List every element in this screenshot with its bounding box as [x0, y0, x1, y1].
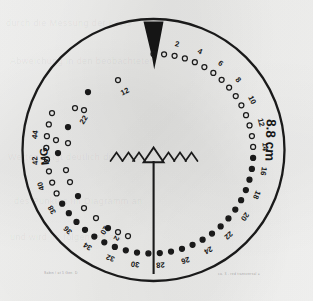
spiral-point [251, 144, 256, 149]
inner-point [73, 106, 78, 111]
spiral-point [179, 246, 184, 251]
spiral-point [50, 180, 55, 185]
inner-point [116, 78, 121, 83]
scale-label-right: 8.8 cm [262, 119, 278, 162]
spiral-number-label: 18 [251, 189, 263, 200]
inner-point [66, 141, 71, 146]
inner-point-label: 12 [119, 86, 131, 98]
spiral-point [83, 227, 88, 232]
inner-point-labels: 1222210 [78, 86, 131, 243]
inner-point [68, 180, 73, 185]
spiral-point [74, 219, 79, 224]
spiral-number-label: 22 [222, 229, 234, 241]
spiral-point [182, 56, 187, 61]
spiral-point [50, 111, 55, 116]
inner-point [86, 90, 91, 95]
spiral-number-label: 10 [246, 94, 258, 106]
spiral-point [123, 248, 128, 253]
spiral-point [202, 65, 207, 70]
inner-point [126, 234, 131, 239]
inner-point [54, 138, 59, 143]
spiral-point [251, 155, 256, 160]
spiral-point [60, 201, 65, 206]
spiral-point [157, 251, 162, 256]
spiral-point [233, 207, 238, 212]
spiral-point [233, 94, 238, 99]
spiral-point [218, 224, 223, 229]
inner-point [82, 206, 87, 211]
spiral-point [66, 211, 71, 216]
spiral-point [239, 198, 244, 203]
spiral-number-label: 34 [81, 240, 94, 253]
figure-canvas: 0246810121416182022242628303234363840424… [0, 0, 313, 301]
spiral-point [210, 231, 215, 236]
spiral-number-label: 32 [105, 252, 116, 263]
spiral-point [162, 52, 167, 57]
spiral-number-label: 20 [239, 211, 251, 223]
spiral-number-label: 4 [196, 46, 204, 56]
spiral-point [46, 169, 51, 174]
spiral-number-label: 6 [216, 59, 225, 69]
chevron-markers [111, 153, 198, 162]
spiral-point [244, 113, 249, 118]
inner-point [94, 216, 99, 221]
spiral-point [226, 216, 231, 221]
spiral-point [243, 188, 248, 193]
inner-point-label: 22 [78, 114, 90, 126]
inner-point [82, 108, 87, 113]
spiral-number-label: 8 [234, 75, 244, 84]
caption-left: Sabin / at 5 Gen. D [44, 271, 78, 275]
spiral-point [44, 134, 49, 139]
spiral-point [54, 191, 59, 196]
caption-right: ca. 3 - red transversal = [218, 272, 260, 276]
spiral-point [239, 103, 244, 108]
inner-point [76, 194, 81, 199]
spiral-point [247, 123, 252, 128]
spiral-point [102, 240, 107, 245]
inner-point-label: 2 [111, 234, 121, 242]
spiral-point [190, 242, 195, 247]
spiral-point [135, 250, 140, 255]
spiral-point [169, 249, 174, 254]
spiral-point [219, 77, 224, 82]
inner-point [56, 151, 61, 156]
spiral-point [249, 166, 254, 171]
spiral-number-label: 16 [258, 166, 268, 176]
spiral-point [46, 122, 51, 127]
spiral-point [249, 134, 254, 139]
spiral-number-label: 26 [180, 255, 191, 266]
spiral-point [227, 85, 232, 90]
spiral-number-label: 2 [174, 39, 180, 49]
spiral-point [146, 251, 151, 256]
spiral-point [192, 60, 197, 65]
spiral-number-label: 0 [151, 38, 155, 47]
spiral-point [200, 237, 205, 242]
inner-point [66, 125, 71, 130]
scale-label-left: MG [37, 147, 51, 166]
spiral-number-label: 36 [62, 224, 74, 236]
figure-root: durch die Messung der Kreis Abweichung i… [0, 0, 313, 301]
spiral-point [172, 53, 177, 58]
spiral-point [112, 244, 117, 249]
spiral-point [211, 70, 216, 75]
inner-point [64, 168, 69, 173]
spiral-number-label: 28 [156, 260, 165, 269]
spiral-point [247, 177, 252, 182]
spiral-number-label: 30 [130, 259, 140, 269]
spiral-number-label: 44 [30, 129, 40, 139]
spiral-point [92, 234, 97, 239]
spiral-number-label: 38 [46, 204, 58, 216]
inner-scatter-points [54, 78, 131, 239]
spiral-number-label: 24 [202, 244, 214, 256]
spiral-number-label: 40 [35, 181, 46, 192]
center-triangle-marker [144, 148, 164, 163]
inner-point [116, 230, 121, 235]
